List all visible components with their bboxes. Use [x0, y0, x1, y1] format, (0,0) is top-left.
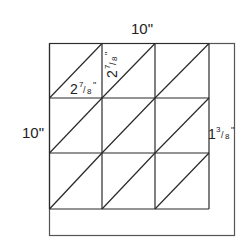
svg-text:2: 2 [104, 70, 120, 78]
svg-text:": " [231, 125, 234, 135]
svg-text:8: 8 [110, 56, 119, 61]
quilt-block-diagram: 10" 10" 1 3 / 8 " 2 7 / 8 " 2 7 / 8 " [0, 0, 244, 248]
svg-text:/: / [83, 85, 86, 95]
svg-text:2: 2 [70, 81, 78, 97]
svg-text:/: / [221, 130, 224, 140]
left-dimension-label: 10" [22, 124, 44, 141]
outer-block-square [50, 44, 235, 236]
svg-text:": " [93, 80, 96, 90]
top-dimension-label: 10" [131, 20, 153, 37]
triangle-bottom-label: 2 7 / 8 " [70, 80, 96, 97]
half-square-triangle-grid [50, 44, 210, 210]
svg-text:/: / [108, 62, 118, 65]
svg-text:8: 8 [225, 132, 230, 141]
triangle-side-label: 2 7 / 8 " [103, 52, 120, 78]
svg-text:1: 1 [208, 126, 216, 142]
svg-text:8: 8 [87, 87, 92, 96]
border-width-label: 1 3 / 8 " [208, 125, 234, 142]
svg-text:": " [103, 52, 113, 55]
